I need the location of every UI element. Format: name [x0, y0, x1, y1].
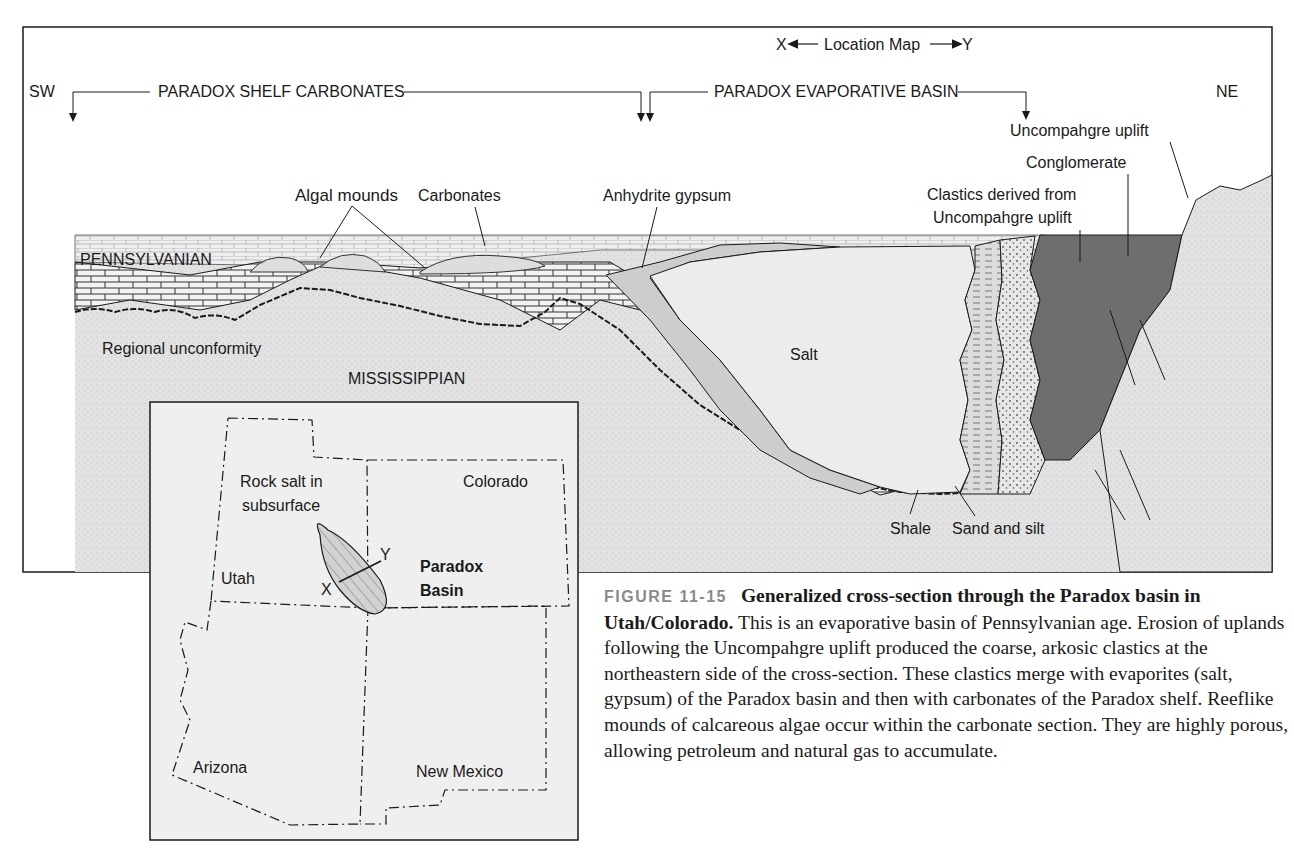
uncompahgre-uplift-label: Uncompahgre uplift	[1010, 122, 1149, 139]
regional-unconformity-label: Regional unconformity	[102, 340, 261, 357]
clastics-label-line1: Clastics derived from	[927, 186, 1076, 203]
utah-label: Utah	[221, 570, 255, 587]
carbonates-label: Carbonates	[418, 187, 501, 204]
paradox-basin-label-line2: Basin	[420, 582, 464, 599]
arizona-label: Arizona	[193, 759, 247, 776]
figure-number: FIGURE 11-15	[604, 588, 727, 605]
map-x-label: X	[321, 581, 332, 598]
figure-body: This is an evaporative basin of Pennsylv…	[604, 612, 1288, 761]
shale-label: Shale	[890, 520, 931, 537]
rock-salt-label-line1: Rock salt in	[240, 473, 323, 490]
pennsylvanian-label: PENNSYLVANIAN	[80, 251, 212, 268]
map-y-label: Y	[380, 546, 391, 563]
ne-label: NE	[1216, 83, 1238, 100]
evaporative-basin-header: PARADOX EVAPORATIVE BASIN	[714, 83, 959, 100]
shelf-carbonates-header: PARADOX SHELF CARBONATES	[158, 83, 405, 100]
svg-text:Location Map: Location Map	[824, 36, 920, 53]
mississippian-label: MISSISSIPPIAN	[348, 370, 465, 387]
conglomerate-label: Conglomerate	[1026, 154, 1127, 171]
svg-text:X: X	[776, 36, 787, 53]
colorado-label: Colorado	[463, 473, 528, 490]
anhydrite-gypsum-label: Anhydrite gypsum	[603, 187, 731, 204]
algal-mounds-label: Algal mounds	[295, 186, 398, 205]
sw-label: SW	[29, 83, 56, 100]
new-mexico-label: New Mexico	[416, 763, 503, 780]
rock-salt-label-line2: subsurface	[242, 497, 320, 514]
salt-label: Salt	[790, 346, 818, 363]
paradox-basin-label-line1: Paradox	[420, 558, 483, 575]
svg-text:Y: Y	[962, 36, 973, 53]
clastics-label-line2: Uncompahgre uplift	[933, 209, 1072, 226]
figure-caption: FIGURE 11-15Generalized cross-section th…	[604, 583, 1294, 763]
sand-silt-label: Sand and silt	[952, 520, 1045, 537]
